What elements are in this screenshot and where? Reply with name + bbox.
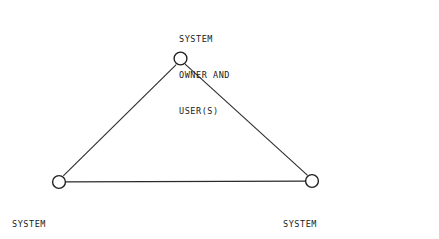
edge-architect-contractor [66, 181, 306, 182]
node-label-contractor: SYSTEM CONTRACTOR (HARDWARE, SOFTWARE VE… [267, 194, 426, 239]
node-label-owner-line-2: OWNER AND [179, 69, 230, 81]
diagram-canvas: SYSTEM OWNER AND USER(S) SYSTEM ARCHITEC… [0, 0, 439, 239]
node-architect-circle[interactable] [53, 176, 66, 189]
node-label-owner-line-3: USER(S) [179, 105, 230, 117]
node-label-contractor-line-1: SYSTEM [267, 218, 426, 230]
node-label-architect: SYSTEM ARCHITECT, CONSULTANT [12, 194, 69, 239]
node-label-architect-line-1: SYSTEM [12, 218, 69, 230]
node-contractor-circle[interactable] [306, 175, 319, 188]
edge-owner-architect [63, 65, 176, 176]
node-label-owner-line-1: SYSTEM [179, 33, 230, 45]
node-label-owner: SYSTEM OWNER AND USER(S) [179, 9, 230, 141]
